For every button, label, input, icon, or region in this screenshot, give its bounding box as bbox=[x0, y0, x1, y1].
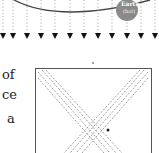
orbit-diagram bbox=[0, 0, 159, 153]
body-text-line-2: ce bbox=[2, 88, 17, 101]
arrowheads bbox=[0, 33, 158, 39]
body-text-line-1: of bbox=[2, 68, 15, 81]
crossing-beams bbox=[38, 70, 148, 153]
top-marker bbox=[92, 62, 94, 64]
earth-label: Earth bbox=[121, 1, 140, 7]
detector-dot bbox=[107, 129, 110, 132]
earth-sublabel: (hot) bbox=[123, 9, 135, 14]
body-text-line-3: a bbox=[7, 112, 15, 125]
